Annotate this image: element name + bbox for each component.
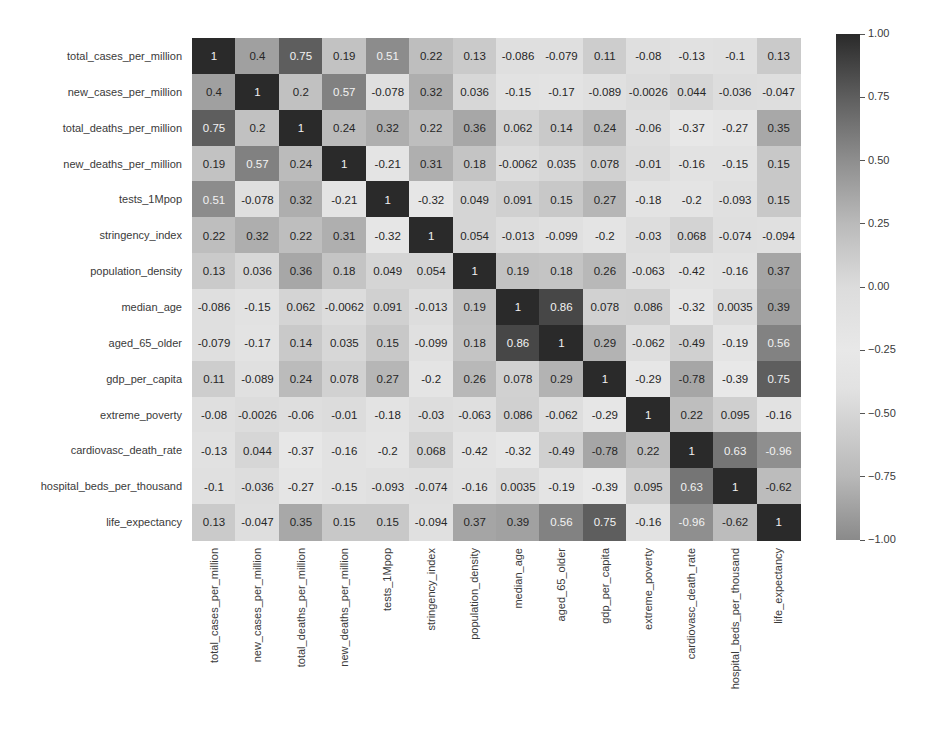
heatmap-cell: 0.22 xyxy=(409,38,453,74)
heatmap-cell: -0.079 xyxy=(539,38,583,74)
heatmap-cell: 0.18 xyxy=(539,253,583,289)
heatmap-cell: -0.27 xyxy=(279,468,323,504)
column-label: median_age xyxy=(512,548,524,734)
heatmap-cell: 0.036 xyxy=(235,253,279,289)
heatmap-cell: 0.19 xyxy=(496,253,540,289)
heatmap-cell: 0.062 xyxy=(496,110,540,146)
heatmap-cell: -0.15 xyxy=(322,468,366,504)
heatmap-cell: 1 xyxy=(453,253,497,289)
heatmap-cell: 0.24 xyxy=(279,146,323,182)
heatmap-cell: 1 xyxy=(670,432,714,468)
heatmap-cell: -0.13 xyxy=(670,38,714,74)
heatmap-cell: 0.068 xyxy=(409,432,453,468)
heatmap-cell: 0.26 xyxy=(583,253,627,289)
heatmap-cell: -0.29 xyxy=(626,361,670,397)
heatmap-cell: 0.22 xyxy=(626,432,670,468)
heatmap-cell: 0.39 xyxy=(496,504,540,540)
colorbar-tick-label: 0.75 xyxy=(860,90,889,102)
row-label: total_deaths_per_million xyxy=(0,110,182,146)
heatmap-cell: -0.16 xyxy=(322,432,366,468)
heatmap-cell: 0.29 xyxy=(583,325,627,361)
heatmap-cell: 0.095 xyxy=(713,397,757,433)
heatmap-cell: -0.062 xyxy=(626,325,670,361)
heatmap-cell: 0.22 xyxy=(279,217,323,253)
row-label: new_deaths_per_million xyxy=(0,146,182,182)
heatmap-cell: -0.078 xyxy=(366,74,410,110)
heatmap-cell: -0.094 xyxy=(757,217,801,253)
colorbar xyxy=(836,34,860,540)
heatmap-cell: -0.08 xyxy=(192,397,236,433)
heatmap-cell: -0.093 xyxy=(713,181,757,217)
heatmap-cell: -0.15 xyxy=(496,74,540,110)
heatmap-cell: -0.2 xyxy=(670,181,714,217)
heatmap-cell: 0.27 xyxy=(366,361,410,397)
heatmap-cell: 1 xyxy=(409,217,453,253)
heatmap-cell: -0.093 xyxy=(366,468,410,504)
heatmap-cell: -0.42 xyxy=(670,253,714,289)
heatmap-cell: 0.51 xyxy=(192,181,236,217)
heatmap-cell: 0.32 xyxy=(279,181,323,217)
row-label: total_cases_per_million xyxy=(0,38,182,74)
heatmap-cell: 0.15 xyxy=(322,504,366,540)
heatmap-cell: 0.14 xyxy=(279,325,323,361)
heatmap-cell: -0.19 xyxy=(713,325,757,361)
heatmap-cell: 0.57 xyxy=(235,146,279,182)
colorbar-tick-label: 0.50 xyxy=(860,154,889,166)
heatmap-cell: 0.32 xyxy=(366,110,410,146)
heatmap-cell: -0.1 xyxy=(192,468,236,504)
heatmap-cell: 0.75 xyxy=(279,38,323,74)
row-label: stringency_index xyxy=(0,217,182,253)
heatmap-cell: -0.32 xyxy=(409,181,453,217)
heatmap-cell: 0.086 xyxy=(496,397,540,433)
heatmap-cell: -0.06 xyxy=(626,110,670,146)
heatmap-cell: 0.37 xyxy=(453,504,497,540)
colorbar-tick-label: 0.00 xyxy=(860,280,889,292)
column-label: new_deaths_per_million xyxy=(338,548,350,734)
column-label: new_cases_per_million xyxy=(251,548,263,734)
heatmap-cell: 0.18 xyxy=(453,146,497,182)
column-label: tests_1Mpop xyxy=(381,548,393,734)
heatmap-cell: -0.16 xyxy=(713,253,757,289)
heatmap-cell: -0.19 xyxy=(539,468,583,504)
heatmap-cell: 0.63 xyxy=(713,432,757,468)
heatmap-cell: 0.0035 xyxy=(496,468,540,504)
heatmap-cell: 0.091 xyxy=(366,289,410,325)
heatmap-cell: -0.62 xyxy=(713,504,757,540)
heatmap-cell: -0.094 xyxy=(409,504,453,540)
heatmap-cell: -0.089 xyxy=(235,361,279,397)
heatmap-cell: 0.054 xyxy=(453,217,497,253)
heatmap-cell: 0.0035 xyxy=(713,289,757,325)
heatmap-cell: 0.86 xyxy=(539,289,583,325)
heatmap-cell: -0.96 xyxy=(757,432,801,468)
heatmap-cell: 0.078 xyxy=(583,146,627,182)
heatmap-cell: -0.03 xyxy=(409,397,453,433)
heatmap-cell: -0.21 xyxy=(322,181,366,217)
heatmap-cell: 1 xyxy=(583,361,627,397)
heatmap-cell: 0.036 xyxy=(453,74,497,110)
heatmap-cell: 0.31 xyxy=(409,146,453,182)
heatmap-cell: 0.56 xyxy=(539,504,583,540)
heatmap-cell: -0.17 xyxy=(235,325,279,361)
heatmap-cell: -0.086 xyxy=(496,38,540,74)
heatmap-cell: -0.1 xyxy=(713,38,757,74)
heatmap-cell: 0.054 xyxy=(409,253,453,289)
heatmap-cell: 0.11 xyxy=(192,361,236,397)
heatmap-cell: 0.4 xyxy=(192,74,236,110)
heatmap-cell: 0.13 xyxy=(453,38,497,74)
heatmap-cell: -0.0062 xyxy=(496,146,540,182)
heatmap-cell: -0.036 xyxy=(235,468,279,504)
heatmap-cell: 0.078 xyxy=(496,361,540,397)
heatmap-cell: 0.75 xyxy=(583,504,627,540)
heatmap-cell: 0.062 xyxy=(279,289,323,325)
row-label: life_expectancy xyxy=(0,504,182,540)
row-label: extreme_poverty xyxy=(0,397,182,433)
heatmap-cell: 0.068 xyxy=(670,217,714,253)
heatmap-cell: -0.18 xyxy=(626,181,670,217)
heatmap-cell: 0.044 xyxy=(670,74,714,110)
column-label: aged_65_older xyxy=(555,548,567,734)
column-label: total_deaths_per_million xyxy=(295,548,307,734)
heatmap-cell: 1 xyxy=(192,38,236,74)
row-label: gdp_per_capita xyxy=(0,361,182,397)
heatmap-cell: -0.18 xyxy=(366,397,410,433)
heatmap-cell: -0.2 xyxy=(583,217,627,253)
